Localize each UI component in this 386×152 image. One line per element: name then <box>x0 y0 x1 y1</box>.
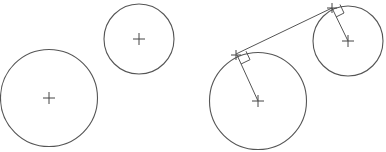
tangent-circles-diagram <box>0 0 386 152</box>
background <box>0 0 386 152</box>
